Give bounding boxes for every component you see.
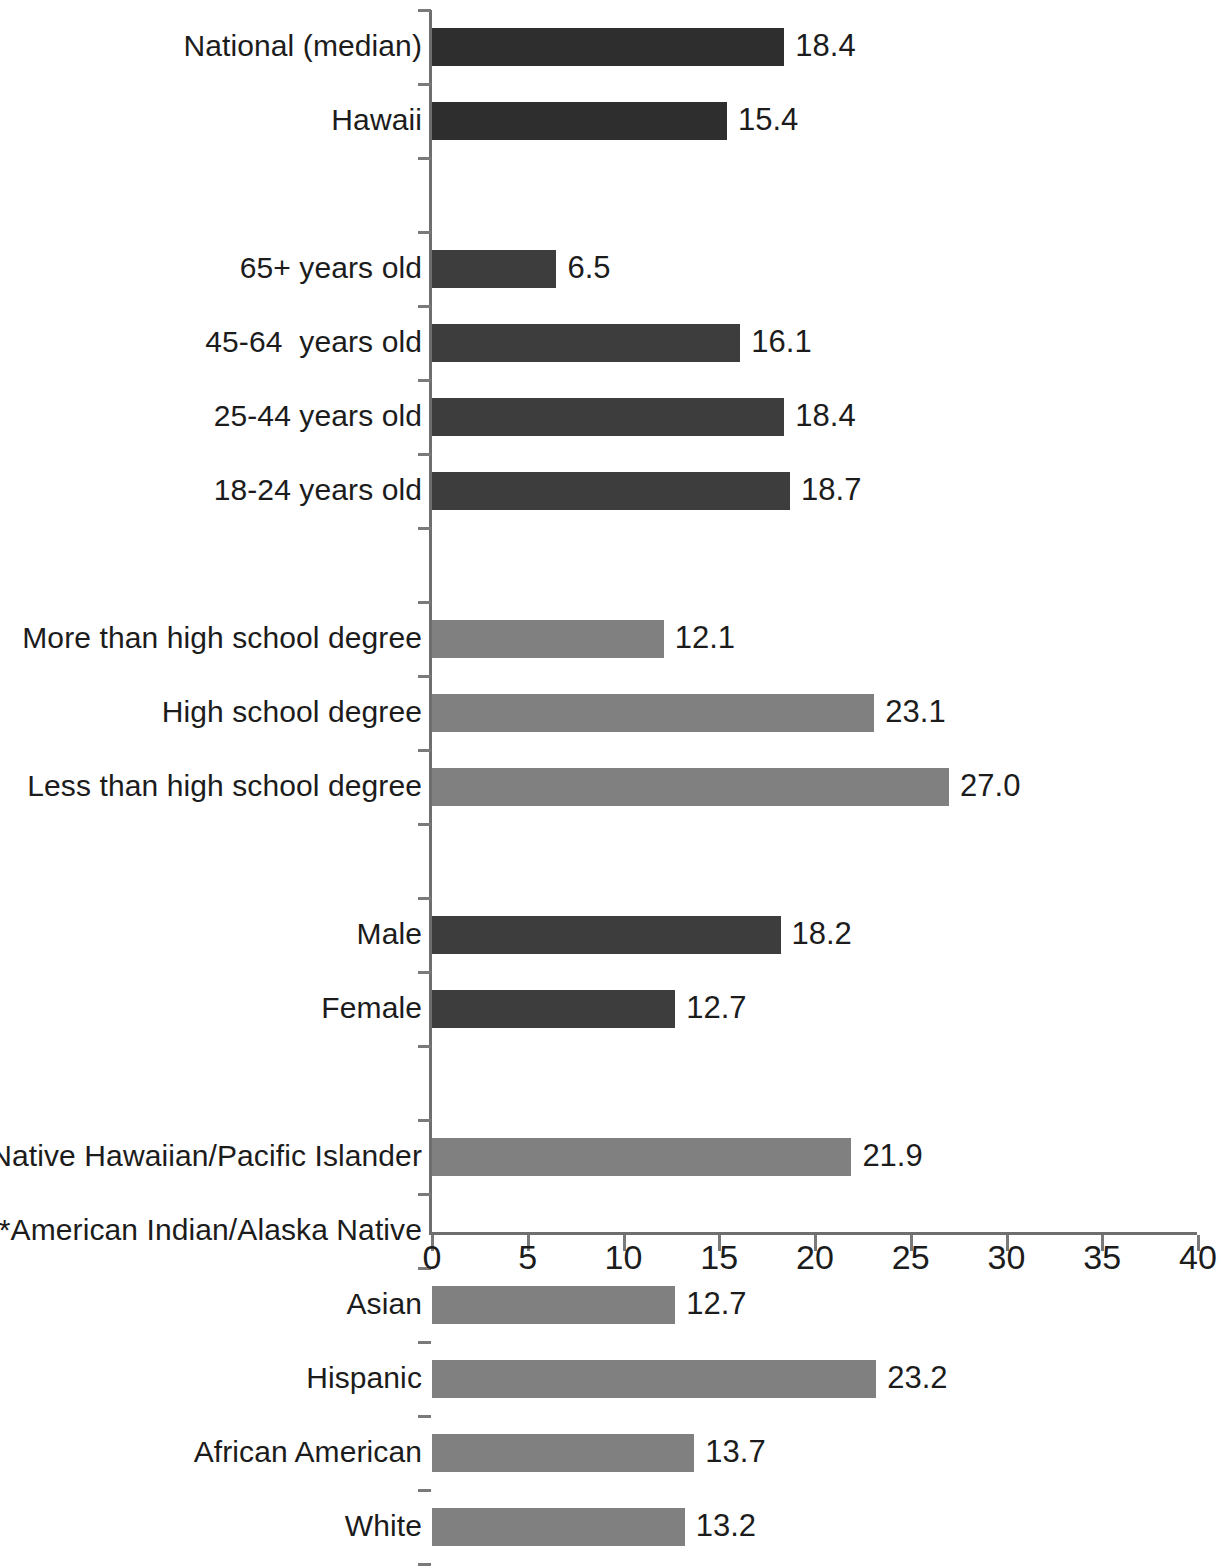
y-axis-tick	[418, 1415, 431, 1418]
bar-value-label: 21.9	[862, 1119, 922, 1193]
y-axis-tick	[418, 305, 431, 308]
bar-value-label: 13.7	[705, 1415, 765, 1489]
bar	[432, 694, 874, 732]
bar-row-label: Less than high school degree	[27, 749, 422, 823]
bar-row: Asian12.7	[0, 1267, 1221, 1341]
bar-row-label: Hispanic	[306, 1341, 422, 1415]
bar	[432, 398, 784, 436]
bar-value-label: 23.2	[887, 1341, 947, 1415]
bar-row: National (median)18.4	[0, 9, 1221, 83]
x-axis-tick-label: 10	[605, 1238, 643, 1277]
bar-value-label: 6.5	[567, 231, 610, 305]
bar-row-label: 45-64 years old	[205, 305, 422, 379]
bar	[432, 250, 556, 288]
bar-row: White13.2	[0, 1489, 1221, 1563]
bar-row: Hispanic23.2	[0, 1341, 1221, 1415]
bar	[432, 472, 790, 510]
bar-row-label: High school degree	[162, 675, 422, 749]
x-axis-tick-label: 40	[1179, 1238, 1217, 1277]
bar	[432, 1434, 694, 1472]
y-axis-tick	[418, 897, 431, 900]
y-axis-tick	[418, 823, 431, 826]
y-axis-tick	[418, 9, 431, 12]
bar-value-label: 18.7	[801, 453, 861, 527]
bar	[432, 768, 949, 806]
x-axis-tick-label: 30	[988, 1238, 1026, 1277]
bar	[432, 916, 781, 954]
bar-row-label: Female	[321, 971, 422, 1045]
bar-row-label: More than high school degree	[22, 601, 422, 675]
bar-row-label: 25-44 years old	[214, 379, 422, 453]
y-axis-tick	[418, 1489, 431, 1492]
y-axis-tick	[418, 749, 431, 752]
bar-row-label: 65+ years old	[240, 231, 422, 305]
x-axis-tick-label: 0	[423, 1238, 442, 1277]
bar	[432, 620, 664, 658]
x-axis-tick-label: 5	[518, 1238, 537, 1277]
bar	[432, 990, 675, 1028]
bar	[432, 102, 727, 140]
bar-row: More than high school degree12.1	[0, 601, 1221, 675]
bar-row: 18-24 years old18.7	[0, 453, 1221, 527]
y-axis-tick	[418, 453, 431, 456]
y-axis-tick	[418, 1341, 431, 1344]
bar-row-label: White	[345, 1489, 422, 1563]
bar-row-label: Native Hawaiian/Pacific Islander	[0, 1119, 422, 1193]
bar-row: 65+ years old6.5	[0, 231, 1221, 305]
bar-row-label: African American	[194, 1415, 422, 1489]
bar	[432, 28, 784, 66]
bar-value-label: 13.2	[696, 1489, 756, 1563]
bar-row-label: Asian	[346, 1267, 422, 1341]
x-axis-tick-label: 15	[700, 1238, 738, 1277]
bar-value-label: 16.1	[751, 305, 811, 379]
x-axis-tick-label: 25	[892, 1238, 930, 1277]
y-axis-tick	[418, 379, 431, 382]
y-axis-tick	[418, 231, 431, 234]
x-axis-tick-label: 20	[796, 1238, 834, 1277]
bar-row-label: National (median)	[184, 9, 422, 83]
bar-value-label: 23.1	[885, 675, 945, 749]
y-axis-tick	[418, 83, 431, 86]
bar-value-label: 18.4	[795, 379, 855, 453]
bar-row: 25-44 years old18.4	[0, 379, 1221, 453]
bar-value-label: 12.7	[686, 971, 746, 1045]
bar	[432, 1508, 685, 1546]
bar	[432, 1138, 851, 1176]
bar-row: 45-64 years old16.1	[0, 305, 1221, 379]
bar-value-label: 12.1	[675, 601, 735, 675]
bar	[432, 1360, 876, 1398]
y-axis-tick	[418, 675, 431, 678]
bar-row: Male18.2	[0, 897, 1221, 971]
bar-row-label: Male	[357, 897, 422, 971]
bar-row: African American13.7	[0, 1415, 1221, 1489]
bar-row: Native Hawaiian/Pacific Islander21.9	[0, 1119, 1221, 1193]
y-axis-tick	[418, 1045, 431, 1048]
bar-row: Female12.7	[0, 971, 1221, 1045]
y-axis-tick	[418, 157, 431, 160]
y-axis-tick	[418, 971, 431, 974]
bar-row: Hawaii15.4	[0, 83, 1221, 157]
bar-row-label: ***American Indian/Alaska Native	[0, 1193, 422, 1267]
y-axis-tick	[418, 527, 431, 530]
y-axis-tick	[418, 601, 431, 604]
bar-value-label: 12.7	[686, 1267, 746, 1341]
bar-row-label: 18-24 years old	[214, 453, 422, 527]
bar-row: High school degree23.1	[0, 675, 1221, 749]
bar-row-label: Hawaii	[331, 83, 422, 157]
bar-value-label: 15.4	[738, 83, 798, 157]
x-axis-tick-label: 35	[1083, 1238, 1121, 1277]
bar-value-label: 27.0	[960, 749, 1020, 823]
bar-row: Less than high school degree27.0	[0, 749, 1221, 823]
y-axis-tick	[418, 1193, 431, 1196]
y-axis-tick	[418, 1119, 431, 1122]
bar-value-label: 18.2	[792, 897, 852, 971]
bar	[432, 324, 740, 362]
bar	[432, 1286, 675, 1324]
bar-value-label: 18.4	[795, 9, 855, 83]
